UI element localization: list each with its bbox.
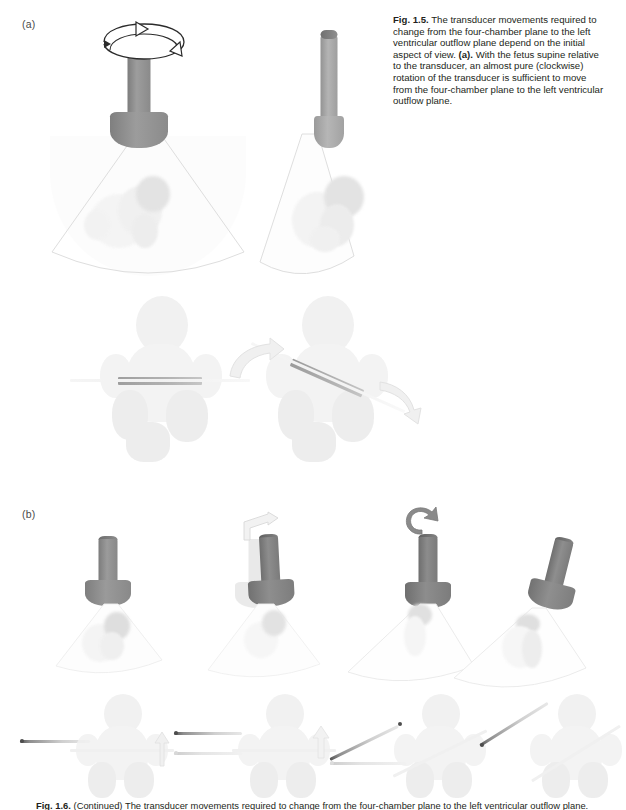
panel-label-a: (a) [22,18,35,30]
orientation-bar-3b-tip [330,761,334,765]
up-arrow-2 [154,730,170,768]
small-rotation-arrow [238,510,288,544]
transducer-top-cap-rotated [321,30,338,39]
fetus-supine-horizontal [92,292,228,464]
transducer-rotated [302,24,356,154]
bottom-figure-caption: Fig. 1.6. (Continued) The transducer mov… [36,800,596,810]
orientation-bar-1-tip [20,739,24,743]
panel-label-b: (b) [22,508,35,520]
fetus-step-4 [528,692,624,804]
fetal-heart-step-2 [242,608,298,666]
panel-b-step-1-group [66,518,216,668]
fetal-heart-step-3 [394,604,450,662]
orientation-bar-3a [329,725,399,761]
orientation-bar-4-tip [480,743,484,747]
panel-b-step-4-group [506,518,626,678]
fetal-heart-step-4 [496,614,552,674]
circular-rotation-arrow [84,20,200,66]
fetal-heart-step-1 [82,610,138,668]
fetal-heart-left [84,170,184,260]
transducer-footplate-rotated [314,116,344,148]
orientation-bar-2b [174,752,242,755]
transducer-footplate [110,112,168,148]
bottom-caption-number: Fig. 1.6. [36,800,71,810]
curved-c-arrow [402,504,442,538]
bottom-caption-text: (Continued) The transducer movements req… [71,800,588,810]
panel-a-transducer-front-group [78,20,268,270]
panel-a-transducer-rotated-group [268,20,428,270]
orientation-bar-2b-tip [174,751,178,755]
curved-arrow-right [378,378,432,426]
fetal-heart-right [290,170,380,260]
scan-plane-extension-horizontal [70,379,250,382]
up-arrow-3 [312,724,330,760]
transducer-handle-rotated [321,36,338,124]
caption-marker-a: (a). [459,49,473,60]
curved-arrow-left [226,336,286,382]
orientation-bar-2a-tip [174,731,178,735]
orientation-bar-2a [174,732,242,735]
